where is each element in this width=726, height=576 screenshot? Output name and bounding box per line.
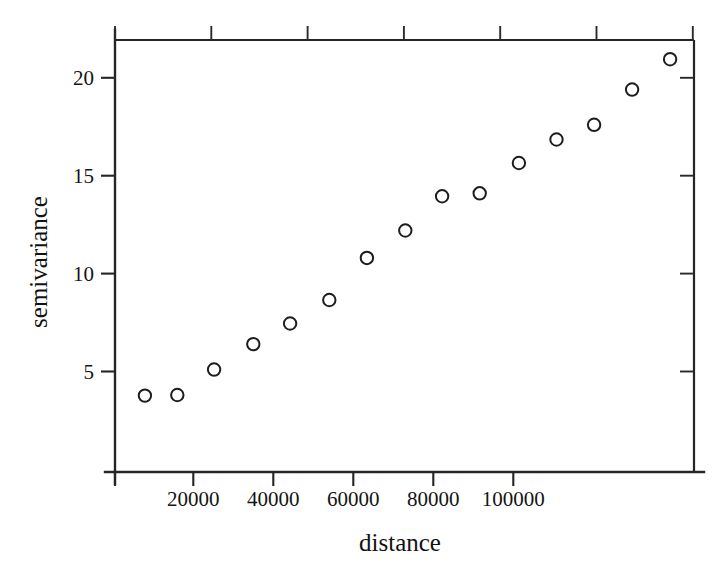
data-point bbox=[323, 294, 335, 306]
x-axis-ticks-bottom bbox=[115, 472, 513, 486]
data-point bbox=[208, 363, 220, 375]
data-point bbox=[513, 157, 525, 169]
data-point bbox=[171, 389, 183, 401]
x-tick-label: 100000 bbox=[482, 489, 545, 510]
data-point bbox=[474, 187, 486, 199]
y-axis-ticks-left bbox=[101, 78, 115, 372]
data-point bbox=[361, 252, 373, 264]
x-axis-ticks-top bbox=[115, 26, 693, 40]
scatter-series bbox=[139, 53, 677, 402]
data-point bbox=[588, 119, 600, 131]
y-tick-label: 5 bbox=[84, 361, 95, 382]
data-point bbox=[284, 317, 296, 329]
plot-frame bbox=[105, 30, 704, 484]
y-axis-ticks-right bbox=[680, 78, 694, 372]
data-point bbox=[139, 389, 151, 401]
x-tick-label: 60000 bbox=[327, 489, 380, 510]
data-point bbox=[247, 338, 259, 350]
x-tick-label: 40000 bbox=[247, 489, 300, 510]
x-tick-label: 80000 bbox=[407, 489, 460, 510]
semivariogram-figure: 2015105 20000400006000080000100000 dista… bbox=[0, 0, 726, 576]
y-tick-label: 20 bbox=[73, 67, 94, 88]
x-tick-label: 20000 bbox=[167, 489, 220, 510]
data-point bbox=[436, 190, 448, 202]
x-axis-title: distance bbox=[359, 530, 441, 555]
y-axis-title: semivariance bbox=[26, 196, 51, 328]
data-point bbox=[399, 224, 411, 236]
y-tick-label: 15 bbox=[73, 165, 94, 186]
data-point bbox=[550, 133, 562, 145]
y-tick-label: 10 bbox=[73, 263, 94, 284]
data-point bbox=[626, 83, 638, 95]
data-point bbox=[664, 53, 676, 65]
